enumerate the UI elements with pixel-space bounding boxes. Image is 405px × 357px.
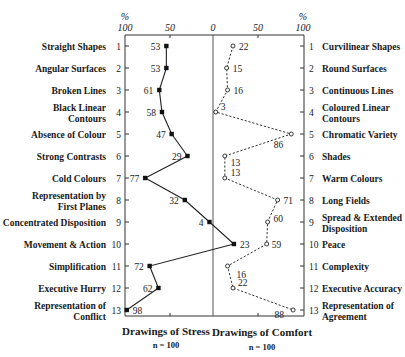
right-row-number: 1 bbox=[309, 42, 314, 52]
comfort-marker bbox=[223, 176, 227, 180]
stress-series-title: Drawings of Stress bbox=[122, 325, 211, 337]
stress-value-label: 58 bbox=[146, 108, 156, 118]
comfort-marker bbox=[231, 286, 235, 290]
comfort-value-label: 13 bbox=[231, 158, 241, 168]
stress-value-label: 47 bbox=[156, 130, 166, 140]
tick-zero: 0 bbox=[211, 22, 216, 33]
right-row-number: 5 bbox=[309, 130, 314, 140]
comfort-line bbox=[216, 46, 293, 310]
comfort-marker bbox=[276, 198, 280, 202]
comfort-n: n = 100 bbox=[249, 342, 276, 352]
comfort-value-label: 71 bbox=[284, 196, 294, 206]
comfort-marker bbox=[226, 264, 230, 268]
comfort-series-title: Drawings of Comfort bbox=[212, 326, 313, 338]
stress-marker bbox=[157, 88, 161, 92]
left-row-number: 9 bbox=[116, 218, 121, 228]
comfort-marker bbox=[214, 110, 218, 114]
comfort-value-label: 3 bbox=[221, 102, 226, 112]
right-category-label: Round Surfaces bbox=[322, 64, 387, 74]
right-category-label: Shades bbox=[322, 152, 351, 162]
right-category-label: Executive Accuracy bbox=[322, 284, 402, 294]
comfort-value-label: 22 bbox=[239, 42, 249, 52]
left-category-label: Black LinearContours bbox=[53, 103, 107, 124]
left-row-number: 1 bbox=[116, 42, 121, 52]
comfort-marker bbox=[265, 242, 269, 246]
top-axis: % % 100 50 0 50 100 bbox=[118, 11, 311, 33]
comfort-value-label: 13 bbox=[231, 168, 241, 178]
stress-marker bbox=[207, 220, 211, 224]
stress-marker bbox=[185, 154, 189, 158]
stress-n: n = 100 bbox=[153, 340, 180, 350]
stress-marker bbox=[169, 132, 173, 136]
left-category-label: Cold Colours bbox=[52, 174, 106, 184]
right-row-number: 11 bbox=[309, 262, 318, 272]
right-row-number: 8 bbox=[309, 196, 314, 206]
stress-marker bbox=[164, 44, 168, 48]
left-row-number: 3 bbox=[116, 86, 121, 96]
series-comfort: 2215163861313716059162288 bbox=[214, 42, 295, 320]
series-stress: 5353615847297732423726298 bbox=[125, 42, 250, 317]
right-category-label: Curvilinear Shapes bbox=[322, 42, 401, 52]
left-row-number: 6 bbox=[116, 152, 121, 162]
right-category-label: Peace bbox=[322, 240, 345, 250]
stress-marker bbox=[125, 308, 129, 312]
comfort-value-label: 59 bbox=[272, 240, 282, 250]
right-category-label: Coloured LinearContours bbox=[322, 103, 390, 124]
left-category-label: Concentrated Disposition bbox=[3, 218, 107, 228]
stress-value-label: 53 bbox=[151, 42, 161, 52]
tick-left-100: 100 bbox=[118, 22, 133, 33]
left-row-number: 5 bbox=[116, 130, 121, 140]
right-row-number: 9 bbox=[309, 218, 314, 228]
left-row-number: 10 bbox=[112, 240, 122, 250]
left-category-label: Representation byFirst Planes bbox=[32, 191, 106, 212]
stress-value-label: 23 bbox=[240, 240, 250, 250]
stress-marker bbox=[143, 176, 147, 180]
left-unit: % bbox=[121, 11, 129, 22]
right-row-number: 13 bbox=[309, 306, 319, 316]
left-category-label: Simplification bbox=[49, 262, 107, 272]
comfort-value-label: 88 bbox=[275, 310, 285, 320]
stress-value-label: 4 bbox=[199, 218, 204, 228]
right-category-label: Continuous Lines bbox=[322, 86, 394, 96]
right-row-number: 3 bbox=[309, 86, 314, 96]
stress-value-label: 29 bbox=[172, 152, 182, 162]
left-row-number: 11 bbox=[112, 262, 121, 272]
right-category-label: Chromatic Variety bbox=[322, 130, 398, 140]
left-category-label: Representation ofConflict bbox=[34, 301, 107, 322]
comfort-value-label: 16 bbox=[234, 86, 244, 96]
comfort-marker bbox=[226, 88, 230, 92]
stress-marker bbox=[183, 198, 187, 202]
right-row-number: 6 bbox=[309, 152, 314, 162]
tick-left-50: 50 bbox=[165, 22, 175, 33]
left-row-number: 12 bbox=[112, 284, 122, 294]
stress-value-label: 62 bbox=[143, 284, 153, 294]
left-row-number: 7 bbox=[116, 174, 121, 184]
right-category-labels: 1Curvilinear Shapes2Round Surfaces3Conti… bbox=[309, 42, 403, 323]
left-row-number: 2 bbox=[116, 64, 121, 74]
right-row-number: 4 bbox=[309, 108, 314, 118]
comfort-marker bbox=[231, 44, 235, 48]
stress-value-label: 61 bbox=[144, 86, 154, 96]
comfort-value-label: 22 bbox=[238, 278, 248, 288]
stress-value-label: 98 bbox=[133, 306, 143, 316]
left-row-number: 4 bbox=[116, 108, 121, 118]
tick-right-50: 50 bbox=[253, 22, 263, 33]
stress-comfort-chart: % % 100 50 0 50 100 1Straight Shapes2Ang… bbox=[0, 0, 405, 357]
left-category-label: Straight Shapes bbox=[42, 42, 106, 52]
plot-frame bbox=[125, 35, 304, 316]
comfort-marker bbox=[223, 154, 227, 158]
right-category-label: Spread & ExtendedDisposition bbox=[322, 213, 403, 234]
comfort-value-label: 60 bbox=[274, 214, 284, 224]
left-category-label: Executive Hurry bbox=[38, 284, 106, 294]
left-category-label: Angular Surfaces bbox=[35, 64, 106, 74]
stress-marker bbox=[164, 66, 168, 70]
right-row-number: 10 bbox=[309, 240, 319, 250]
right-row-number: 7 bbox=[309, 174, 314, 184]
stress-marker bbox=[156, 286, 160, 290]
stress-marker bbox=[232, 242, 236, 246]
right-category-label: Long Fields bbox=[322, 196, 370, 206]
left-category-labels: 1Straight Shapes2Angular Surfaces3Broken… bbox=[3, 42, 121, 323]
stress-value-label: 32 bbox=[169, 196, 179, 206]
stress-marker bbox=[160, 110, 164, 114]
left-category-label: Absence of Colour bbox=[31, 130, 107, 140]
